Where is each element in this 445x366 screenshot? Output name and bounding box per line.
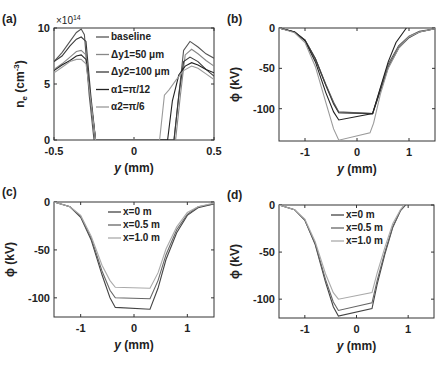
y-tick-label: 10 (38, 22, 50, 34)
y-tick-label: 0 (44, 134, 50, 146)
series-line (279, 28, 435, 114)
panel-a: -0.500.50510baselineΔy1=50 μmΔy2=100 μmα… (2, 12, 222, 175)
y-tick-label: -100 (28, 292, 50, 304)
x-tick-label: -1 (76, 322, 86, 334)
x-tick-label: 0.5 (206, 145, 221, 157)
series-line (279, 28, 435, 114)
legend-entry: α1=π/12 (111, 84, 151, 95)
y-tick-label: -100 (253, 293, 275, 305)
y-tick-label: -50 (34, 244, 50, 256)
legend-entry: x=0.5 m (346, 222, 383, 233)
legend-entry: Δy1=50 μm (111, 49, 164, 60)
series-line (279, 28, 435, 114)
y-tick-label: 0 (269, 199, 275, 211)
x-tick-label: -1 (300, 146, 310, 158)
legend-entry: baseline (111, 31, 151, 42)
series-line (54, 49, 214, 140)
x-tick-label: 1 (184, 322, 190, 334)
y-tick-label: -100 (253, 103, 275, 115)
panel-b: -1010-50-100(b)y (mm)ϕ (kV) (227, 12, 435, 176)
legend-entry: x=0 m (346, 209, 375, 220)
legend: x=0 mx=0.5 mx=1.0 m (331, 209, 383, 246)
panel-d: -1010-50-100x=0 mx=0.5 mx=1.0 m(d)y (mm)… (227, 188, 434, 353)
y-tick-label: -50 (259, 62, 275, 74)
panel-label: (c) (2, 185, 17, 199)
legend-entry: x=1.0 m (123, 232, 160, 243)
x-axis-label: y (mm) (336, 162, 376, 176)
x-axis-label: y (mm) (113, 161, 153, 175)
axes-box (279, 28, 435, 141)
x-axis-label: y (mm) (113, 338, 153, 352)
x-tick-label: 0 (354, 146, 360, 158)
legend-entry: x=0.5 m (123, 219, 160, 230)
legend-entry: x=1.0 m (346, 235, 383, 246)
y-multiplier: ×1014 (56, 14, 81, 26)
legend-entry: Δy2=100 μm (111, 66, 170, 77)
x-tick-label: -1 (300, 323, 310, 335)
panel-label: (a) (2, 12, 17, 26)
legend-entry: x=0 m (123, 206, 152, 217)
panel-label: (d) (227, 188, 242, 202)
y-axis-label: ne (cm-3) (12, 60, 29, 108)
panel-label: (b) (227, 12, 242, 26)
y-tick-label: -50 (259, 246, 275, 258)
x-tick-label: 1 (405, 323, 411, 335)
y-axis-label: ϕ (kV) (3, 242, 17, 277)
x-tick-label: 0 (353, 323, 359, 335)
y-tick-label: 0 (269, 22, 275, 34)
y-tick-label: 5 (44, 78, 50, 90)
y-axis-label: ϕ (kV) (228, 67, 242, 102)
y-axis-label: ϕ (kV) (228, 244, 242, 279)
x-tick-label: 0 (131, 145, 137, 157)
legend: baselineΔy1=50 μmΔy2=100 μmα1=π/12α2=π/6 (96, 31, 170, 112)
legend: x=0 mx=0.5 mx=1.0 m (108, 206, 160, 243)
series-line (279, 205, 406, 316)
panel-c: -1010-50-100x=0 mx=0.5 mx=1.0 m(c)y (mm)… (2, 185, 214, 352)
x-tick-label: 1 (406, 146, 412, 158)
series-line (279, 28, 435, 140)
series-line (279, 28, 406, 120)
figure: -0.500.50510baselineΔy1=50 μmΔy2=100 μmα… (0, 0, 445, 366)
x-tick-label: -0.5 (45, 145, 64, 157)
x-tick-label: 0 (131, 322, 137, 334)
series-line (279, 205, 406, 311)
y-tick-label: 0 (44, 196, 50, 208)
legend-entry: α2=π/6 (111, 101, 145, 112)
x-axis-label: y (mm) (336, 339, 376, 353)
